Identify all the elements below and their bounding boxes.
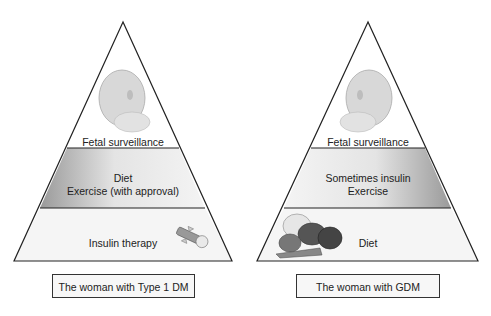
tier-bottom (14, 208, 232, 261)
tier-middle-label-2: Exercise (348, 185, 388, 198)
tier-middle-label-2: Exercise (with approval) (67, 185, 179, 198)
tier-top-label: Fetal surveillance (327, 136, 409, 149)
tier-top-label: Fetal surveillance (82, 136, 164, 149)
caption-type1: The woman with Type 1 DM (52, 274, 195, 298)
tier-bottom-label: Diet (359, 237, 378, 250)
tier-bottom-label: Insulin therapy (89, 237, 157, 250)
diagram-canvas (0, 0, 491, 316)
tier-middle-label-1: Sometimes insulin (325, 172, 410, 185)
caption-gdm: The woman with GDM (296, 274, 440, 298)
tier-middle-label-1: Diet (114, 172, 133, 185)
